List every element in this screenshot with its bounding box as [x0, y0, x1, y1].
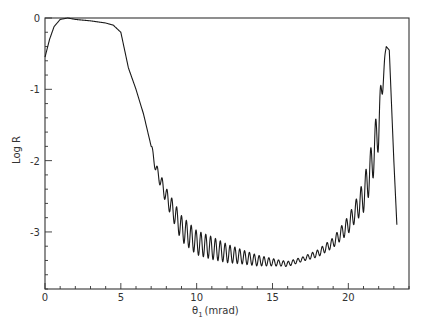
x-tick-label: 0	[42, 292, 48, 303]
x-axis-label-subscript: 1	[198, 311, 202, 319]
x-tick-label: 15	[266, 292, 279, 303]
y-tick-label: -1	[30, 84, 40, 95]
y-axis-ticks: 0-1-2-3	[30, 13, 52, 289]
x-tick-label: 10	[190, 292, 203, 303]
y-axis-label: Log R	[11, 136, 22, 164]
reflectivity-chart: 05101520 0-1-2-3 Log R θ1(mrad)	[0, 0, 425, 326]
y-tick-label: -2	[30, 156, 40, 167]
plot-frame	[45, 18, 409, 289]
reflectivity-curve	[45, 18, 397, 267]
x-axis-label: θ1(mrad)	[192, 305, 239, 319]
x-axis-ticks: 05101520	[42, 283, 409, 303]
x-axis-label-unit: (mrad)	[205, 305, 239, 316]
y-tick-label: -3	[30, 227, 40, 238]
x-tick-label: 20	[342, 292, 355, 303]
y-tick-label: 0	[34, 13, 40, 24]
x-tick-label: 5	[118, 292, 124, 303]
